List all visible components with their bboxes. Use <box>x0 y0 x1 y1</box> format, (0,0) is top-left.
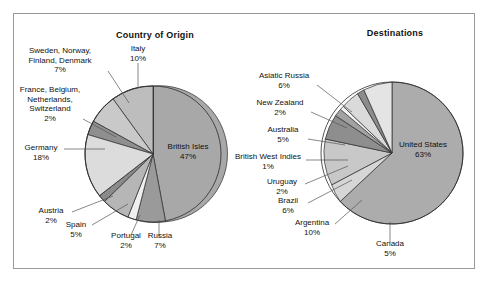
label-france-belgium-netherlands-switzerland: France, Belgium, Netherlands, Switzerlan… <box>6 85 94 123</box>
pie-chart-figure: Country of Origin Destinations <box>0 0 490 286</box>
label-canada: Canada 5% <box>370 239 410 258</box>
label-sweden-norway-finland-denmark: Sweden, Norway, Finland, Denmark 7% <box>12 46 108 75</box>
label-united-states: United States 63% <box>390 140 456 159</box>
label-argentina: Argentina 10% <box>288 218 336 237</box>
label-brazil: Brazil 6% <box>270 196 306 215</box>
label-spain: Spain 5% <box>58 220 94 239</box>
label-new-zealand: New Zealand 2% <box>249 98 311 117</box>
label-russia: Russia 7% <box>141 231 179 250</box>
label-germany: Germany 18% <box>18 143 64 162</box>
label-asiatic-russia: Asiatic Russia 6% <box>250 71 318 90</box>
label-uruguay: Uruguay 2% <box>260 177 304 196</box>
label-british-west-indies: British West Indies 1% <box>231 152 305 171</box>
label-british-isles: British Isles 47% <box>156 142 220 161</box>
label-italy: Italy 10% <box>120 44 156 63</box>
label-australia: Australia 5% <box>258 125 308 144</box>
